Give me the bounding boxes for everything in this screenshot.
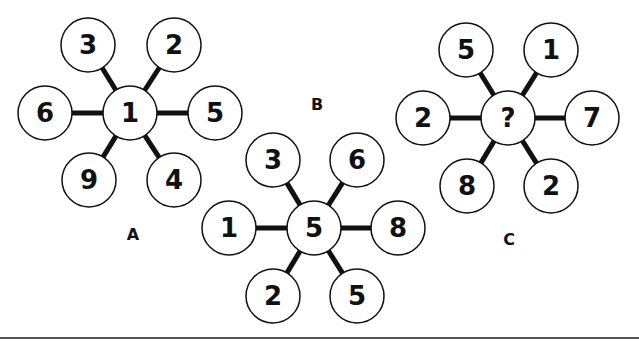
center-node: ? xyxy=(481,91,535,145)
node-value: 2 xyxy=(165,30,183,60)
spoke-line xyxy=(521,71,537,97)
wheel-figure-c: ?512782C xyxy=(396,23,619,249)
figure-label: A xyxy=(127,225,140,244)
outer-node: 7 xyxy=(565,91,619,145)
figure-label: C xyxy=(503,230,515,249)
outer-node: 3 xyxy=(246,133,300,187)
node-value: 8 xyxy=(389,213,407,243)
spoke-line xyxy=(286,249,301,274)
node-value: 1 xyxy=(542,35,560,65)
node-value: 5 xyxy=(348,281,366,311)
node-value: 5 xyxy=(206,98,224,128)
outer-node: 5 xyxy=(188,86,242,140)
node-value: 9 xyxy=(80,165,98,195)
number-wheel-puzzle: 1326594A5361825B?512782C xyxy=(0,0,639,341)
spoke-line xyxy=(101,66,117,91)
spoke-line xyxy=(479,71,495,96)
outer-node: 1 xyxy=(202,201,256,255)
spoke-line xyxy=(480,139,495,164)
outer-node: 2 xyxy=(396,91,450,145)
center-node: 5 xyxy=(287,201,341,255)
node-value: 2 xyxy=(264,281,282,311)
node-value: 2 xyxy=(542,171,560,201)
spoke-line xyxy=(327,181,343,207)
node-value: ? xyxy=(500,103,515,133)
outer-node: 4 xyxy=(147,153,201,207)
node-value: 6 xyxy=(36,98,54,128)
spoke-line xyxy=(521,139,537,165)
node-value: 3 xyxy=(264,145,282,175)
outer-node: 5 xyxy=(330,269,384,323)
node-value: 1 xyxy=(121,98,139,128)
outer-node: 1 xyxy=(524,23,578,77)
node-value: 3 xyxy=(79,30,97,60)
outer-node: 9 xyxy=(62,153,116,207)
node-value: 8 xyxy=(458,171,476,201)
outer-node: 8 xyxy=(371,201,425,255)
outer-node: 5 xyxy=(439,23,493,77)
outer-node: 2 xyxy=(524,159,578,213)
outer-node: 6 xyxy=(18,86,72,140)
node-value: 6 xyxy=(348,145,366,175)
spoke-line xyxy=(327,249,343,275)
node-value: 5 xyxy=(305,213,323,243)
figure-label: B xyxy=(311,95,323,114)
node-value: 2 xyxy=(414,103,432,133)
spoke-line xyxy=(144,66,161,92)
center-node: 1 xyxy=(103,86,157,140)
spoke-line xyxy=(286,181,301,206)
outer-node: 2 xyxy=(246,269,300,323)
outer-node: 6 xyxy=(330,133,384,187)
outer-node: 2 xyxy=(147,18,201,72)
outer-node: 8 xyxy=(440,159,494,213)
node-value: 5 xyxy=(457,35,475,65)
node-value: 1 xyxy=(220,213,238,243)
spoke-line xyxy=(102,134,117,158)
outer-node: 3 xyxy=(61,18,115,72)
bottom-rule xyxy=(0,337,639,339)
node-value: 7 xyxy=(583,103,601,133)
node-value: 4 xyxy=(165,165,183,195)
spoke-line xyxy=(144,134,161,159)
